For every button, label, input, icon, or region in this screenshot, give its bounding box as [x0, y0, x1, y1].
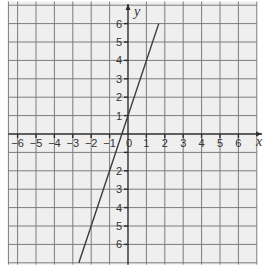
y-tick-label: 4 [116, 54, 122, 66]
x-tick-label: 6 [235, 137, 241, 149]
y-tick-label: 6 [116, 18, 122, 30]
y-tick-label: 3 [116, 183, 122, 195]
y-tick-label: 5 [116, 36, 122, 48]
x-tick-label: −1 [103, 137, 116, 149]
y-tick-label: 2 [116, 91, 122, 103]
origin-label: 0 [126, 137, 132, 149]
grid [8, 2, 256, 265]
x-tick-label: −4 [48, 137, 61, 149]
x-tick-label: 1 [143, 137, 149, 149]
x-tick-label: −2 [85, 137, 98, 149]
x-tick-label: 3 [180, 137, 186, 149]
y-tick-label: 3 [116, 73, 122, 85]
x-axis-label: x [255, 134, 263, 149]
y-tick-label: 1 [116, 110, 122, 122]
x-tick-label: −3 [67, 137, 80, 149]
x-tick-label: −5 [30, 137, 43, 149]
y-axis-label: y [132, 4, 141, 19]
x-tick-label: −6 [11, 137, 24, 149]
x-tick-label: 2 [162, 137, 168, 149]
y-tick-label: 2 [116, 165, 122, 177]
x-tick-label: 5 [217, 137, 223, 149]
x-tick-label: 4 [199, 137, 205, 149]
y-tick-label: 6 [116, 238, 122, 250]
coordinate-plane: −6−5−4−3−2−1123456654321234560 x y [0, 0, 266, 280]
y-tick-label: 5 [116, 220, 122, 232]
y-tick-label: 4 [116, 202, 122, 214]
